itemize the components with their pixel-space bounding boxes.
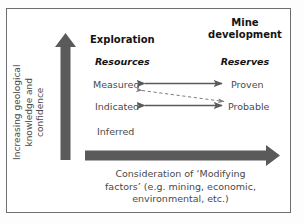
x-axis-caption: Consideration of ‘Modifying factors’ (e.…: [78, 168, 283, 206]
category-probable: Probable: [228, 101, 269, 112]
y-axis-caption-line3: confidence: [35, 47, 47, 177]
mine-development-heading-line2: development: [205, 29, 285, 41]
y-axis-caption: Increasing geological knowledge and conf…: [12, 47, 47, 177]
resources-subheading: Resources: [95, 56, 150, 67]
reserves-subheading: Reserves: [205, 56, 285, 67]
mine-development-heading-line1: Mine: [205, 17, 285, 29]
category-indicated: Indicated: [95, 101, 139, 112]
category-measured: Measured: [93, 79, 139, 90]
exploration-heading: Exploration: [90, 34, 155, 46]
mine-development-heading: Mine development: [205, 17, 285, 40]
x-axis-caption-line3: environmental, etc.): [78, 193, 283, 206]
y-axis-caption-line1: Increasing geological: [12, 47, 24, 177]
x-axis-caption-line2: factors’ (e.g. mining, economic,: [78, 181, 283, 194]
category-inferred: Inferred: [97, 126, 134, 137]
y-axis-caption-line2: knowledge and: [23, 47, 35, 177]
diagram-canvas: Exploration Resources Mine development R…: [0, 0, 304, 224]
category-proven: Proven: [231, 79, 264, 90]
x-axis-caption-line1: Consideration of ‘Modifying: [78, 168, 283, 181]
